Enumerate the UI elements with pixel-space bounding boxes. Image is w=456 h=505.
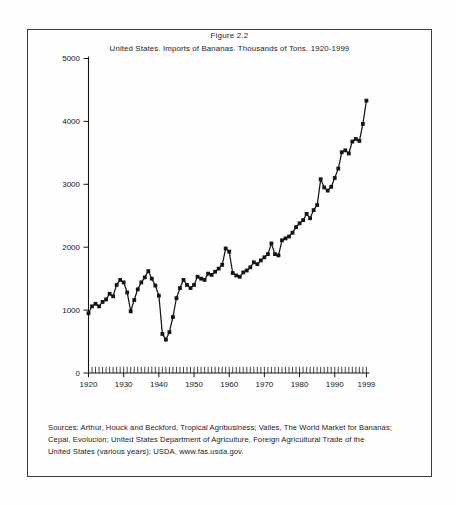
data-point-marker	[118, 278, 122, 282]
data-point-marker	[87, 311, 91, 315]
data-point-marker	[329, 185, 333, 189]
data-point-marker	[164, 338, 168, 342]
data-point-marker	[333, 176, 337, 180]
data-point-marker	[319, 177, 323, 181]
sources-note: Sources: Arthur, Houck and Beckford, Tro…	[48, 422, 408, 459]
data-point-marker	[122, 281, 126, 285]
data-point-marker	[136, 287, 140, 291]
data-point-marker	[199, 277, 203, 281]
x-axis-tick-label: 1960	[220, 380, 238, 389]
y-axis-tick-label: 2000	[62, 243, 80, 252]
data-point-marker	[245, 269, 249, 273]
data-point-marker	[322, 186, 326, 190]
y-axis-tick-label: 4000	[62, 117, 80, 126]
data-point-marker	[350, 140, 354, 144]
data-point-marker	[277, 253, 281, 257]
data-point-marker	[90, 304, 94, 308]
data-point-marker	[157, 294, 161, 298]
data-point-marker	[175, 296, 179, 300]
x-axis-tick-label: 1990	[326, 380, 344, 389]
data-point-marker	[132, 298, 136, 302]
data-point-marker	[94, 302, 98, 306]
data-point-marker	[227, 250, 231, 254]
data-point-marker	[273, 252, 277, 256]
data-point-marker	[280, 238, 284, 242]
data-point-marker	[220, 263, 224, 267]
data-point-marker	[315, 203, 319, 207]
data-point-marker	[206, 272, 210, 276]
data-point-marker	[284, 236, 288, 240]
data-point-marker	[210, 273, 214, 277]
data-point-marker	[301, 218, 305, 222]
x-axis-tick-label: 1970	[255, 380, 273, 389]
x-axis-tick-label: 1999	[358, 380, 376, 389]
data-point-marker	[171, 315, 175, 319]
data-point-marker	[104, 298, 108, 302]
data-point-marker	[326, 189, 330, 193]
data-point-marker	[125, 291, 129, 295]
data-point-marker	[287, 235, 291, 239]
data-point-marker	[153, 284, 157, 288]
data-point-marker	[111, 294, 115, 298]
data-point-marker	[234, 274, 238, 278]
data-point-marker	[143, 275, 147, 279]
data-point-marker	[252, 260, 256, 264]
x-axis-tick-label: 1980	[291, 380, 309, 389]
data-point-marker	[357, 139, 361, 143]
data-point-marker	[294, 225, 298, 229]
data-point-marker	[192, 283, 196, 287]
data-point-marker	[361, 122, 365, 126]
x-axis-tick-label: 1950	[185, 380, 203, 389]
data-point-marker	[160, 332, 164, 336]
x-axis-tick-label: 1940	[150, 380, 168, 389]
data-point-marker	[101, 300, 105, 304]
data-point-marker	[108, 292, 112, 296]
sources-line-2: Cepal, Evolucion; United States Departme…	[48, 434, 408, 446]
data-point-marker	[217, 267, 221, 271]
x-axis-tick-label: 1930	[115, 380, 133, 389]
data-point-marker	[129, 309, 133, 313]
data-point-marker	[196, 275, 200, 279]
data-point-marker	[224, 247, 228, 251]
data-point-marker	[365, 99, 369, 103]
data-point-marker	[231, 271, 235, 275]
data-point-marker	[340, 150, 344, 154]
data-point-marker	[298, 221, 302, 225]
data-point-marker	[146, 269, 150, 273]
data-point-marker	[262, 255, 266, 259]
sources-line-3: United States (various years); USDA, www…	[48, 446, 408, 458]
data-point-marker	[347, 152, 351, 156]
data-point-marker	[168, 330, 172, 334]
data-point-marker	[115, 283, 119, 287]
data-point-marker	[259, 259, 263, 263]
data-point-marker	[139, 281, 143, 285]
data-point-marker	[182, 278, 186, 282]
y-axis-tick-label: 3000	[62, 180, 80, 189]
data-point-marker	[336, 167, 340, 171]
y-axis-tick-label: 1000	[62, 306, 80, 315]
data-point-marker	[203, 278, 207, 282]
data-point-marker	[305, 212, 309, 216]
sources-line-1: Sources: Arthur, Houck and Beckford, Tro…	[48, 422, 408, 434]
data-point-marker	[270, 242, 274, 246]
data-point-marker	[189, 286, 193, 290]
data-point-marker	[97, 304, 101, 308]
data-point-marker	[241, 270, 245, 274]
data-point-marker	[343, 148, 347, 152]
data-point-marker	[255, 262, 259, 266]
data-point-marker	[178, 286, 182, 290]
data-point-marker	[312, 208, 316, 212]
y-axis-tick-label: 5000	[62, 54, 80, 63]
data-point-marker	[308, 216, 312, 220]
data-series-line	[89, 101, 367, 340]
y-axis-tick-label: 0	[76, 369, 81, 378]
data-point-marker	[354, 137, 358, 141]
x-axis-tick-label: 1920	[80, 380, 98, 389]
data-point-marker	[213, 270, 217, 274]
data-point-marker	[150, 277, 154, 281]
page: Figure 2.2 United States. Imports of Ban…	[0, 0, 456, 505]
data-point-marker	[266, 252, 270, 256]
data-point-marker	[248, 265, 252, 269]
data-point-marker	[185, 283, 189, 287]
data-point-marker	[238, 275, 242, 279]
